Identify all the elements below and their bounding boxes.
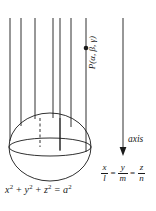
- sphere-equation-label: x2 + y2 + z2 = a2: [5, 184, 72, 195]
- fraction-3-denominator: n: [138, 174, 146, 184]
- sphere-eq-a-exp: 2: [68, 183, 72, 190]
- sphere-equator: [9, 138, 91, 156]
- equals-sign-1: =: [110, 169, 116, 178]
- fraction-3-numerator: z: [138, 163, 145, 173]
- fraction-1-denominator: l: [102, 174, 108, 184]
- axis-arrow-head: [120, 147, 127, 156]
- axis-label: axis: [128, 135, 143, 145]
- point-p-label: P(α, β, γ): [88, 3, 97, 36]
- sphere-outline: [9, 113, 91, 181]
- parallel-lines-group: [10, 18, 71, 150]
- sphere-eq-equals: =: [52, 184, 63, 195]
- sphere-eq-plus-2: +: [33, 184, 44, 195]
- fraction-2-numerator: y: [119, 163, 126, 173]
- fraction-2-denominator: m: [118, 174, 128, 184]
- sphere-eq-plus-1: +: [13, 184, 24, 195]
- direction-ratios-equation: x l = y m = z n: [101, 163, 145, 184]
- point-p-label-text: P(α, β, γ): [88, 36, 97, 69]
- fraction-z-over-n: z n: [138, 163, 146, 184]
- fraction-1-numerator: x: [101, 163, 108, 173]
- axis-arrow-group: [120, 18, 127, 156]
- fraction-x-over-l: x l: [101, 163, 108, 184]
- fraction-y-over-m: y m: [118, 163, 128, 184]
- sphere-axis-diagram: P(α, β, γ) axis x2 + y2 + z2 = a2 x l = …: [0, 0, 156, 211]
- sphere-group: [9, 113, 91, 181]
- equals-sign-2: =: [130, 169, 136, 178]
